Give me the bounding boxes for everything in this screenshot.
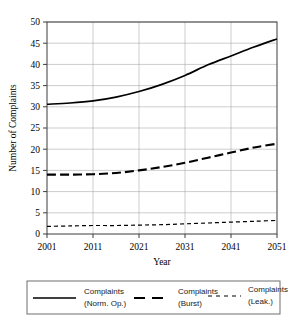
x-axis-title: Year	[153, 257, 171, 267]
legend-entry-burst[interactable]: Complaints (Burst)	[134, 287, 218, 308]
y-axis-title: Number of Complaints	[8, 84, 18, 172]
series-line-burst	[47, 144, 277, 175]
y-tick-label-10: 10	[31, 187, 41, 197]
y-tick-label-35: 35	[31, 81, 41, 91]
x-tick-label-2001: 2001	[38, 242, 57, 252]
y-tick-label-0: 0	[35, 229, 40, 239]
legend-label-norm-op-line1: Complaints	[84, 287, 124, 296]
legend-label-leak-line1: Complaints	[248, 285, 288, 294]
y-tick-label-5: 5	[35, 208, 40, 218]
x-tick-label-2011: 2011	[84, 242, 103, 252]
legend-label-norm-op-line2: (Norm. Op.)	[84, 299, 127, 308]
legend-entry-leak[interactable]: Complaints (Leak.)	[208, 285, 288, 306]
series-line-norm-op	[47, 39, 277, 104]
y-tick-label-25: 25	[31, 123, 41, 133]
y-tick-label-15: 15	[31, 166, 41, 176]
complaints-line-chart: 50 45 40 35 30 25 20 15 10 5 0 2001 2011…	[0, 0, 307, 320]
y-tick-label-20: 20	[31, 145, 41, 155]
y-tick-label-45: 45	[31, 39, 41, 49]
y-tick-label-50: 50	[31, 17, 41, 27]
y-tick-label-40: 40	[31, 60, 41, 70]
x-tick-label-2041: 2041	[222, 242, 241, 252]
legend-entry-norm-op[interactable]: Complaints (Norm. Op.)	[33, 287, 127, 308]
x-tick-label-2031: 2031	[176, 242, 195, 252]
legend-label-burst-line1: Complaints	[178, 287, 218, 296]
series-group	[47, 39, 277, 226]
y-tick-label-30: 30	[31, 102, 41, 112]
legend: Complaints (Norm. Op.) Complaints (Burst…	[27, 281, 288, 314]
series-line-leak	[47, 220, 277, 226]
x-axis-ticks	[47, 234, 277, 238]
x-tick-label-2021: 2021	[130, 242, 149, 252]
legend-label-burst-line2: (Burst)	[178, 299, 202, 308]
y-axis-ticks	[43, 22, 47, 234]
y-axis-tick-labels: 50 45 40 35 30 25 20 15 10 5 0	[31, 17, 41, 239]
legend-label-leak-line2: (Leak.)	[248, 297, 273, 306]
x-axis-tick-labels: 2001 2011 2021 2031 2041 2051	[38, 242, 287, 252]
x-tick-label-2051: 2051	[268, 242, 287, 252]
